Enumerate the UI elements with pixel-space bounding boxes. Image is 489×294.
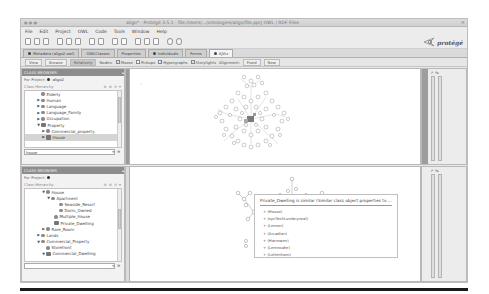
hierarchy-label: Class Hierarchy xyxy=(24,84,54,89)
cut-icon[interactable] xyxy=(57,38,63,45)
tree-item[interactable]: ▼ Commercial_Dwelling xyxy=(25,251,121,257)
tree-scrollbar[interactable] xyxy=(117,189,121,261)
paste-icon[interactable] xyxy=(75,38,81,45)
collapse-icon[interactable]: ▴ xyxy=(122,70,124,75)
tab-label: Metadata (aligo2.owl) xyxy=(33,51,74,56)
dropdown-icon[interactable]: ▾ xyxy=(119,182,121,187)
class-search-input[interactable]: house ▾ xyxy=(24,149,115,155)
relatively-button[interactable]: Relatively xyxy=(70,59,97,66)
save-icon[interactable] xyxy=(43,38,49,45)
window-title: aligo* · Protégé 3.5.1 · file:/Users/...… xyxy=(126,20,299,25)
tree-label: Storefront xyxy=(52,245,72,250)
back-icon[interactable] xyxy=(167,38,173,45)
nodes-label: Nodes: xyxy=(99,60,112,65)
delete-class-icon[interactable]: ⊖ xyxy=(114,182,117,187)
tree-label: Dorm_Owned xyxy=(65,208,92,213)
find-next-icon[interactable] xyxy=(121,38,127,45)
main-content: CLASS BROWSER ▴ For Project: aligo2 Clas… xyxy=(21,68,467,282)
panel-splitter[interactable] xyxy=(422,69,428,164)
zoom-slider[interactable] xyxy=(431,174,435,278)
redo-icon[interactable] xyxy=(98,38,104,45)
fixed-button[interactable]: Fixed xyxy=(243,59,261,66)
pickups-checkbox[interactable]: Pickups xyxy=(136,60,155,65)
hypergraphs-checkbox[interactable]: ✓ Hypergraphs xyxy=(158,60,187,65)
tree-scrollbar[interactable] xyxy=(117,91,121,147)
add-subclass-icon[interactable]: ⊕ xyxy=(104,84,107,89)
dropdown-icon[interactable]: ▾ xyxy=(119,84,121,89)
menu-code[interactable]: Code xyxy=(95,29,107,34)
tab-forms[interactable]: Forms xyxy=(185,49,207,57)
project-icon xyxy=(47,176,50,179)
add-sibling-icon[interactable]: ⊗ xyxy=(109,182,112,187)
forward-icon[interactable] xyxy=(176,38,182,45)
tree-label: Human xyxy=(47,98,61,103)
class-icon xyxy=(46,227,50,231)
find-icon[interactable] xyxy=(112,38,118,45)
window-controls[interactable]: ● ● ● xyxy=(24,20,37,25)
dropdown-icon[interactable]: ▾ xyxy=(112,264,114,268)
undo-icon[interactable] xyxy=(89,38,95,45)
tooltip-title: Private_Dwelling is similar (Similar cla… xyxy=(260,198,392,206)
new-file-icon[interactable] xyxy=(25,38,31,45)
metadata-icon xyxy=(28,52,31,55)
tab-properties[interactable]: Properties xyxy=(117,49,146,57)
search-options-icon[interactable]: ≡ xyxy=(117,149,122,155)
scrollbar-thumb[interactable] xyxy=(118,209,121,229)
search-options-icon[interactable]: ≡ xyxy=(117,263,122,269)
tooltip-row: + (House) xyxy=(260,208,392,215)
property-icon[interactable] xyxy=(144,38,150,45)
add-subclass-icon[interactable]: ⊕ xyxy=(104,182,107,187)
tree-label: House xyxy=(52,190,65,195)
menu-edit[interactable]: Edit xyxy=(40,29,49,34)
tree-item-selected[interactable]: ▶ House xyxy=(25,134,121,140)
zoom-slider[interactable] xyxy=(431,76,435,161)
zoom-in-icon[interactable]: ↗ xyxy=(430,168,433,173)
panel-title: CLASS BROWSER xyxy=(24,70,57,75)
individual-icon[interactable] xyxy=(153,38,159,45)
tab-ajviz[interactable]: AJViz xyxy=(209,49,233,57)
tab-individuals[interactable]: Individuals xyxy=(148,49,183,57)
menu-project[interactable]: Project xyxy=(55,29,70,34)
depth-slider[interactable] xyxy=(438,174,442,278)
class-search-input[interactable]: ▾ xyxy=(24,263,115,269)
collapse-icon[interactable]: ▴ xyxy=(122,168,124,173)
graph-view-top[interactable] xyxy=(125,68,421,165)
browse-button[interactable]: Browse xyxy=(45,59,67,66)
moose-checkbox[interactable]: ✓ Moose xyxy=(116,60,133,65)
view-button[interactable]: View xyxy=(25,59,42,66)
menu-owl[interactable]: OWL xyxy=(78,29,89,34)
menu-file[interactable]: File xyxy=(25,29,33,34)
add-sibling-icon[interactable]: ⊗ xyxy=(109,84,112,89)
zoom-in-icon[interactable]: ↗ xyxy=(430,70,433,75)
checkbox-label: Moose xyxy=(121,60,133,65)
defined-class-icon xyxy=(54,221,59,226)
class-icon[interactable] xyxy=(135,38,141,45)
tab-label: Individuals xyxy=(158,51,178,56)
copy-icon[interactable] xyxy=(66,38,72,45)
depth-slider[interactable] xyxy=(438,76,442,161)
panel-header: CLASS BROWSER ▴ xyxy=(22,167,124,174)
scrollbar-thumb[interactable] xyxy=(118,97,121,123)
open-folder-icon[interactable] xyxy=(34,38,40,45)
individuals-icon xyxy=(153,52,156,55)
zoom-out-icon[interactable]: ⇆ xyxy=(435,70,438,75)
close-icon[interactable]: × xyxy=(461,19,465,25)
tree-label: Occupation xyxy=(47,116,70,121)
checkbox-label: Hypergraphs xyxy=(163,60,187,65)
alignment-label: Alignment: xyxy=(219,60,240,65)
zoom-out-icon[interactable]: ⇆ xyxy=(435,168,438,173)
delete-class-icon[interactable]: ⊖ xyxy=(114,84,117,89)
dropdown-icon[interactable]: ▾ xyxy=(112,150,114,154)
menu-help[interactable]: Help xyxy=(157,29,167,34)
menu-tools[interactable]: Tools xyxy=(114,29,125,34)
storylights-checkbox[interactable]: ✓ Storylights xyxy=(191,60,216,65)
protege-logo-icon xyxy=(423,37,435,47)
tab-metadata[interactable]: Metadata (aligo2.owl) xyxy=(23,49,79,57)
new-button[interactable]: New xyxy=(264,59,280,66)
hierarchy-row: Class Hierarchy ⊕ ⊗ ⊖ ▾ xyxy=(22,181,124,188)
tab-owlclasses[interactable]: OWLClasses xyxy=(81,49,114,57)
tree-label: Language xyxy=(47,104,67,109)
ontology-graph-cluster[interactable] xyxy=(126,69,420,164)
class-icon xyxy=(41,99,45,103)
menu-window[interactable]: Window xyxy=(132,29,150,34)
